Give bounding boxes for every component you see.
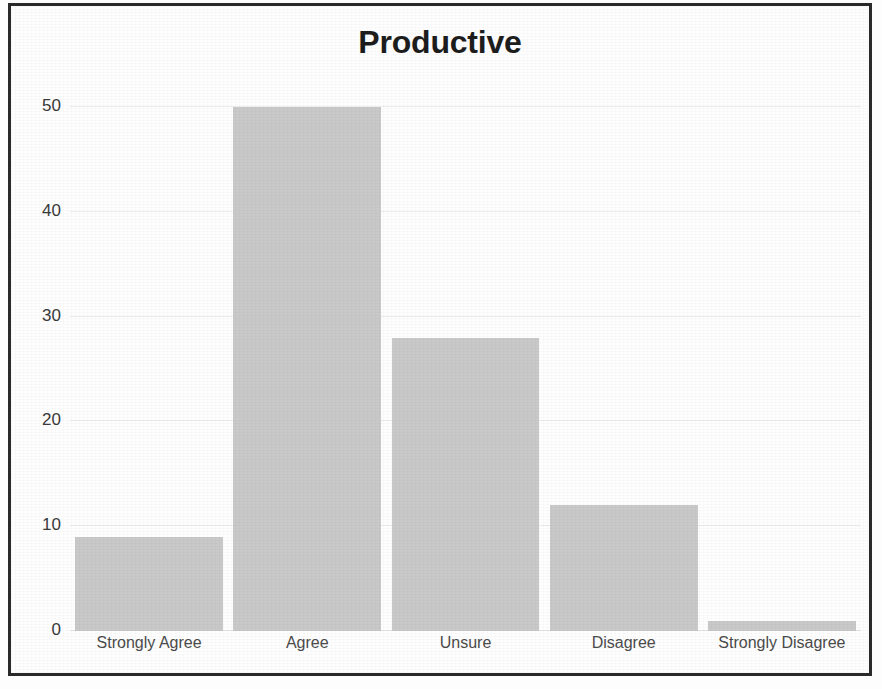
x-axis-label: Strongly Agree <box>97 634 202 652</box>
x-axis-category-labels: Strongly AgreeAgreeUnsureDisagreeStrongl… <box>70 634 861 660</box>
chart-screenshot: Productive 01020304050 Strongly AgreeAgr… <box>0 0 882 689</box>
y-axis-tick-label: 20 <box>42 410 61 430</box>
chart-frame-border: Productive 01020304050 Strongly AgreeAgr… <box>8 3 872 676</box>
plot-area: 01020304050 <box>70 107 861 631</box>
y-axis-tick-label: 50 <box>42 96 61 116</box>
y-axis-tick-label: 10 <box>42 515 61 535</box>
x-axis-label: Unsure <box>440 634 492 652</box>
chart-canvas: Productive 01020304050 Strongly AgreeAgr… <box>11 6 869 673</box>
y-axis-tick-label: 40 <box>42 201 61 221</box>
bar <box>550 505 698 631</box>
x-axis-label: Agree <box>286 634 329 652</box>
y-axis-tick-label: 30 <box>42 306 61 326</box>
bar <box>233 107 381 631</box>
bar <box>75 537 223 631</box>
x-axis-label: Disagree <box>592 634 656 652</box>
x-axis-label: Strongly Disagree <box>718 634 845 652</box>
bar <box>392 338 540 631</box>
bar-series <box>70 107 861 631</box>
y-axis-tick-label: 0 <box>52 620 61 640</box>
bar <box>708 621 856 631</box>
chart-title: Productive <box>11 24 869 61</box>
